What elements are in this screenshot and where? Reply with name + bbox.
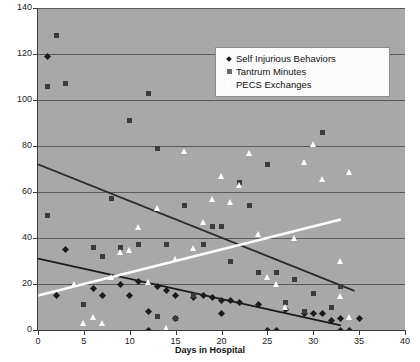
data-point-square — [228, 259, 233, 264]
data-point-square — [302, 309, 307, 314]
data-point-square — [274, 270, 279, 275]
data-point-triangle — [172, 256, 178, 262]
y-tick-label: 60 — [2, 186, 32, 196]
data-point-triangle — [337, 293, 343, 299]
triangle-marker-icon — [222, 82, 236, 87]
trendline-diamond — [38, 259, 341, 326]
y-tick-mark — [33, 8, 38, 9]
legend-label: PECS Exchanges — [236, 79, 312, 90]
data-point-square — [173, 316, 178, 321]
data-point-square — [320, 130, 325, 135]
y-tick-label: 140 — [2, 2, 32, 12]
y-tick-mark — [33, 284, 38, 285]
data-point-square — [329, 305, 334, 310]
data-point-square — [219, 224, 224, 229]
data-point-square — [164, 242, 169, 247]
data-point-square — [292, 277, 297, 282]
data-point-triangle — [255, 231, 261, 237]
data-point-triangle — [190, 245, 196, 251]
data-point-square — [155, 314, 160, 319]
data-point-square — [311, 291, 316, 296]
data-point-triangle — [154, 205, 160, 211]
y-tick-label: 0 — [2, 324, 32, 334]
y-tick-mark — [33, 100, 38, 101]
y-axis-line — [37, 8, 38, 331]
data-point-triangle — [310, 141, 316, 147]
data-point-triangle — [236, 182, 242, 188]
data-point-triangle — [246, 150, 252, 156]
data-point-square — [338, 284, 343, 289]
x-tick-mark — [359, 331, 360, 335]
data-point-triangle — [337, 258, 343, 264]
chart-container: 020406080100120140 0510152025303540 Days… — [0, 0, 420, 362]
y-tick-mark — [33, 238, 38, 239]
data-point-triangle — [108, 274, 114, 280]
y-tick-mark — [33, 146, 38, 147]
trendline-triangle — [38, 220, 341, 296]
data-point-square — [247, 203, 252, 208]
data-point-square — [109, 196, 114, 201]
x-tick-mark — [222, 331, 223, 335]
data-point-triangle — [264, 274, 270, 280]
data-point-triangle — [80, 320, 86, 326]
data-point-square — [45, 213, 50, 218]
legend-item-pecs-exchanges: PECS Exchanges — [222, 78, 383, 91]
data-point-square — [191, 293, 196, 298]
data-point-triangle — [319, 176, 325, 182]
legend-label: Self Injurious Behaviors — [236, 53, 336, 64]
data-point-square — [45, 84, 50, 89]
y-tick-mark — [33, 54, 38, 55]
data-point-triangle — [99, 320, 105, 326]
data-point-triangle — [227, 199, 233, 205]
data-point-triangle — [209, 196, 215, 202]
data-point-triangle — [181, 148, 187, 154]
x-tick-mark — [130, 331, 131, 335]
data-point-triangle — [346, 169, 352, 175]
data-point-square — [136, 242, 141, 247]
data-point-square — [91, 245, 96, 250]
x-tick-mark — [176, 331, 177, 335]
x-tick-mark — [405, 331, 406, 335]
data-point-triangle — [135, 224, 141, 230]
data-point-triangle — [218, 173, 224, 179]
y-tick-label: 40 — [2, 232, 32, 242]
x-axis-title: Days in Hospital — [0, 345, 420, 355]
data-point-square — [210, 224, 215, 229]
y-tick-label: 100 — [2, 94, 32, 104]
legend-item-tantrum-minutes: Tantrum Minutes — [222, 65, 383, 78]
y-tick-label: 80 — [2, 140, 32, 150]
data-point-triangle — [90, 314, 96, 320]
chart-legend: Self Injurious Behaviors Tantrum Minutes… — [215, 47, 390, 97]
data-point-square — [127, 118, 132, 123]
x-tick-mark — [38, 331, 39, 335]
data-point-square — [63, 81, 68, 86]
data-point-square — [100, 254, 105, 259]
data-point-triangle — [273, 281, 279, 287]
data-point-square — [201, 242, 206, 247]
diamond-marker-icon — [222, 57, 236, 61]
data-point-square — [146, 91, 151, 96]
legend-label: Tantrum Minutes — [236, 66, 306, 77]
x-tick-mark — [267, 331, 268, 335]
data-point-triangle — [71, 281, 77, 287]
data-point-triangle — [126, 247, 132, 253]
data-point-square — [182, 203, 187, 208]
legend-item-self-injurious-behaviors: Self Injurious Behaviors — [222, 52, 383, 65]
x-tick-mark — [84, 331, 85, 335]
y-tick-mark — [33, 192, 38, 193]
square-marker-icon — [222, 69, 236, 74]
data-point-square — [265, 162, 270, 167]
data-point-triangle — [117, 249, 123, 255]
data-point-square — [54, 33, 59, 38]
data-point-triangle — [346, 314, 352, 320]
data-point-triangle — [145, 279, 151, 285]
x-tick-mark — [313, 331, 314, 335]
data-point-triangle — [200, 219, 206, 225]
data-point-triangle — [291, 235, 297, 241]
data-point-square — [155, 146, 160, 151]
data-point-triangle — [282, 304, 288, 310]
data-point-square — [81, 302, 86, 307]
y-tick-label: 120 — [2, 48, 32, 58]
data-point-square — [256, 270, 261, 275]
data-point-triangle — [301, 159, 307, 165]
